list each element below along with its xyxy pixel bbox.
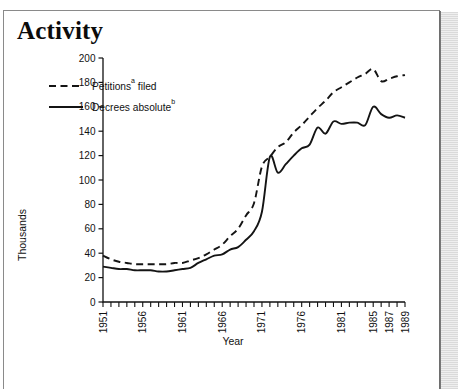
- x-tick-label: 1966: [217, 311, 228, 334]
- x-axis-title: Year: [222, 335, 244, 347]
- y-axis-title: Thousands: [16, 209, 28, 261]
- x-axis-tick-labels: 1951195619611966197119761981198519871989: [98, 311, 411, 334]
- x-tick-label: 1989: [400, 311, 411, 334]
- legend-label: Petitionsa filed: [92, 77, 157, 92]
- figure-chart: 020406080100120140160180200 195119561961…: [3, 45, 440, 355]
- screenshot-page: Activity 020406080100120140160180200 195…: [0, 0, 458, 389]
- y-tick-label: 0: [90, 297, 96, 308]
- chart-legend: Petitionsa filedDecrees absoluteb: [49, 77, 175, 113]
- chart-axes: [103, 58, 405, 302]
- y-tick-label: 140: [79, 126, 96, 137]
- chart-series-lines: [103, 69, 405, 272]
- legend-label-text: Decrees absolute: [92, 102, 172, 113]
- x-tick-label: 1961: [177, 311, 188, 334]
- x-tick-label: 1976: [296, 311, 307, 334]
- legend-label: Decrees absoluteb: [92, 98, 175, 113]
- y-tick-label: 80: [84, 199, 96, 210]
- y-tick-label: 40: [84, 248, 96, 259]
- page-top-margin: [0, 0, 458, 10]
- y-tick-label: 100: [79, 175, 96, 186]
- scan-gutter-shadow: [441, 12, 458, 389]
- legend-label-suffix: filed: [135, 81, 157, 92]
- page-title: Activity: [17, 17, 103, 45]
- legend-label-superscript: b: [171, 98, 175, 105]
- x-tick-label: 1951: [98, 311, 109, 334]
- x-tick-label: 1987: [384, 311, 395, 334]
- y-tick-label: 120: [79, 150, 96, 161]
- x-tick-label: 1985: [368, 311, 379, 334]
- series-line-petitions-filed: [103, 69, 405, 264]
- legend-label-text: Petitions: [92, 81, 131, 92]
- y-tick-label: 20: [84, 272, 96, 283]
- y-tick-label: 60: [84, 223, 96, 234]
- figure-caption-clip: Figure 10.6 Divorce in England and Wales…: [0, 373, 440, 389]
- series-line-decrees-absolute: [103, 107, 405, 272]
- x-tick-label: 1981: [336, 311, 347, 334]
- y-tick-label: 200: [79, 53, 96, 64]
- x-tick-label: 1956: [137, 311, 148, 334]
- x-tick-label: 1971: [256, 311, 267, 334]
- line-chart: 020406080100120140160180200 195119561961…: [3, 45, 440, 355]
